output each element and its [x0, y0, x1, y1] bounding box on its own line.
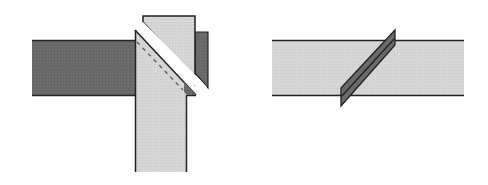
left-panel [32, 16, 208, 172]
dark-horizontal-strip [32, 40, 140, 96]
right-panel [272, 30, 464, 106]
diagram-canvas [0, 0, 488, 185]
